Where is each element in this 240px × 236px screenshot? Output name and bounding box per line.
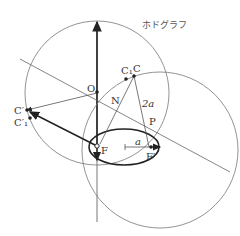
point-C1prime <box>28 116 32 120</box>
label-C1prime: C′₁ <box>14 117 28 128</box>
point-Fprime <box>149 145 153 149</box>
point-C <box>132 74 136 78</box>
label-a: a <box>135 136 141 147</box>
label-C: C <box>133 63 141 74</box>
line-F-C <box>100 76 134 144</box>
line-F-Cprime <box>30 112 97 146</box>
point-O <box>95 90 99 94</box>
label-Fprime: F′ <box>146 151 156 162</box>
label-2a: 2a <box>141 98 154 109</box>
line-O-Cprime <box>27 93 97 110</box>
label-O: O <box>87 83 95 94</box>
point-C1 <box>124 77 128 81</box>
point-F <box>95 144 99 148</box>
point-Cprime <box>25 108 29 112</box>
label-N: N <box>111 95 120 106</box>
label-P: P <box>149 116 156 127</box>
label-F: F <box>101 145 108 156</box>
hodograph-title: ホドグラフ <box>142 19 187 30</box>
label-Cprime: C′ <box>14 105 25 116</box>
hodograph-diagram: ホドグラフ O C₁ C C′ C′₁ N 2a P F a F′ <box>0 0 240 236</box>
label-C1: C₁ <box>121 65 133 76</box>
